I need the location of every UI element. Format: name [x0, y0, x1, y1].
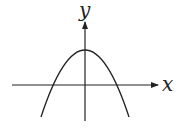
- y-axis-label: y: [78, 0, 91, 22]
- x-axis-label: x: [162, 72, 173, 96]
- parabola-graph: x y: [0, 0, 182, 134]
